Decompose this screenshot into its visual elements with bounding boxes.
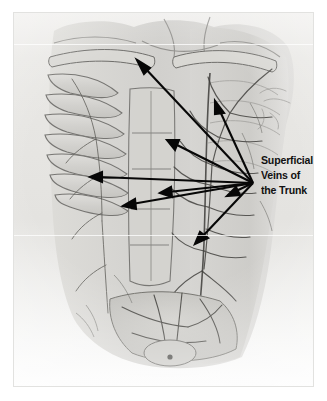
callout-label: Superficial Veins of the Trunk (261, 153, 313, 198)
illustration-plate: Superficial Veins of the Trunk (14, 13, 313, 386)
scan-line-top (14, 44, 313, 45)
scan-line-middle (14, 235, 313, 236)
rectus-abdominis (129, 88, 175, 286)
callout-label-line-2: Veins of (261, 168, 313, 183)
callout-label-line-3: the Trunk (261, 183, 313, 198)
screenshot-root: Superficial Veins of the Trunk (0, 0, 327, 401)
anatomical-drawing (14, 13, 313, 386)
callout-label-line-1: Superficial (261, 153, 313, 168)
